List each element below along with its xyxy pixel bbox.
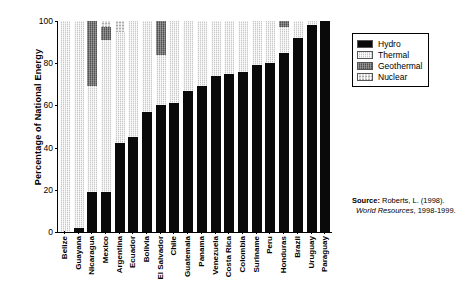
source-years: , 1998-1999. (414, 206, 456, 215)
stacked-bar[interactable] (238, 21, 248, 232)
y-tick-label-100: 100 (19, 16, 58, 26)
stacked-bar[interactable] (279, 21, 289, 232)
bar-segment-hydro (101, 192, 111, 232)
bar-segment-geothermal (156, 21, 166, 55)
bar-segment-hydro (320, 21, 330, 232)
bar-slot (113, 21, 127, 232)
x-tick-label: Costa Rica (224, 236, 233, 277)
stacked-bar[interactable] (183, 21, 193, 232)
legend-label: Hydro (378, 39, 401, 49)
chart-figure: Percentage of National Energy 0 20 40 60… (0, 0, 472, 307)
x-label-slot: El Salvador (153, 234, 167, 306)
bar-segment-hydro (265, 63, 275, 232)
bar-segment-thermal (115, 32, 125, 144)
source-note: Source: Roberts, L. (1998). World Resour… (352, 196, 470, 216)
stacked-bar[interactable] (252, 21, 262, 232)
bar-segment-hydro (279, 53, 289, 232)
bar-slot (277, 21, 291, 232)
source-publication-line: World Resources, 1998-1999. (352, 206, 470, 216)
x-tick-mark (269, 231, 270, 234)
x-tick-label: Argentina (115, 236, 124, 273)
bar-segment-hydro (238, 72, 248, 232)
stacked-bar[interactable] (101, 21, 111, 232)
legend-swatch-icon (357, 40, 373, 48)
x-tick-mark (173, 231, 174, 234)
x-axis-labels: BelizeGuayanaNicaraguaMexicoArgentinaEcu… (57, 234, 331, 306)
x-label-slot: Ecuador (126, 234, 140, 306)
bar-slot (58, 21, 72, 232)
bar-segment-thermal (60, 21, 70, 232)
x-tick-label: Nicaragua (87, 236, 96, 275)
stacked-bar[interactable] (128, 21, 138, 232)
bar-slot (264, 21, 278, 232)
bar-segment-hydro (183, 91, 193, 232)
legend-item-thermal[interactable]: Thermal (357, 49, 422, 60)
stacked-bar[interactable] (60, 21, 70, 232)
x-tick-label: Venezuela (211, 236, 220, 275)
bar-slot (291, 21, 305, 232)
bar-slot (222, 21, 236, 232)
x-tick-label: Paraguay (320, 236, 329, 272)
bar-slot (85, 21, 99, 232)
x-tick-mark (228, 231, 229, 234)
stacked-bar[interactable] (197, 21, 207, 232)
x-label-slot: Colombia (235, 234, 249, 306)
stacked-bar[interactable] (224, 21, 234, 232)
bar-segment-thermal (238, 21, 248, 72)
legend-swatch-icon (357, 51, 373, 59)
x-tick-label: Honduras (279, 236, 288, 273)
bar-segment-hydro (307, 25, 317, 232)
x-tick-label: Ecuador (128, 236, 137, 268)
x-tick-label: Brazil (293, 236, 302, 258)
bar-segment-hydro (115, 143, 125, 232)
source-label: Source: (352, 196, 380, 205)
y-tick-label-20: 20 (19, 185, 58, 195)
x-tick-mark (146, 231, 147, 234)
bar-slot (236, 21, 250, 232)
x-tick-mark (132, 231, 133, 234)
y-tick-label-0: 0 (19, 227, 58, 237)
stacked-bar[interactable] (156, 21, 166, 232)
stacked-bar[interactable] (142, 21, 152, 232)
stacked-bar[interactable] (87, 21, 97, 232)
bar-segment-hydro (252, 65, 262, 232)
x-tick-mark (283, 231, 284, 234)
bar-segment-hydro (211, 76, 221, 232)
x-label-slot: Argentina (112, 234, 126, 306)
bar-slot (250, 21, 264, 232)
stacked-bar[interactable] (307, 21, 317, 232)
stacked-bar[interactable] (74, 21, 84, 232)
legend-item-nuclear[interactable]: Nuclear (357, 71, 422, 82)
y-tick-label-40: 40 (19, 143, 58, 153)
stacked-bar[interactable] (211, 21, 221, 232)
x-label-slot: Uruguay (304, 234, 318, 306)
legend-item-geothermal[interactable]: Geothermal (357, 60, 422, 71)
bar-segment-nuclear (115, 21, 125, 32)
bar-segment-thermal (293, 21, 303, 38)
x-label-slot: Peru (263, 234, 277, 306)
bar-segment-thermal (156, 55, 166, 106)
legend-swatch-icon (357, 73, 373, 81)
stacked-bar[interactable] (169, 21, 179, 232)
x-tick-label: Colombia (238, 236, 247, 272)
x-tick-label: Uruguay (307, 236, 316, 268)
stacked-bar[interactable] (265, 21, 275, 232)
bar-segment-thermal (101, 40, 111, 192)
x-tick-label: Mexico (101, 236, 110, 263)
y-tick-label-60: 60 (19, 100, 58, 110)
bar-slot (195, 21, 209, 232)
bar-slot (72, 21, 86, 232)
bar-slot (99, 21, 113, 232)
stacked-bar[interactable] (293, 21, 303, 232)
bar-slot (209, 21, 223, 232)
stacked-bar[interactable] (115, 21, 125, 232)
stacked-bar[interactable] (320, 21, 330, 232)
legend-label: Nuclear (378, 72, 407, 82)
bar-segment-thermal (211, 21, 221, 76)
legend-item-hydro[interactable]: Hydro (357, 38, 422, 49)
x-tick-mark (242, 231, 243, 234)
x-tick-mark (119, 231, 120, 234)
legend-label: Geothermal (378, 61, 422, 71)
bar-segment-hydro (128, 137, 138, 232)
bar-segment-geothermal (87, 21, 97, 86)
